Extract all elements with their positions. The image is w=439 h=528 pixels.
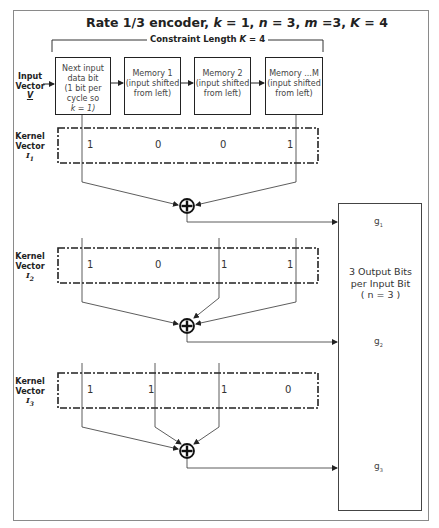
kernel-3-value-4: 0 bbox=[285, 384, 291, 395]
kernel-symbol: I3 bbox=[15, 396, 45, 408]
output-g1: g1 bbox=[374, 216, 383, 228]
kernel-label-line1: Kernel bbox=[15, 377, 45, 387]
register-line: Memory 2 bbox=[196, 69, 250, 79]
register-line: (1 bit per bbox=[62, 84, 104, 94]
constraint-value: = 4 bbox=[246, 34, 265, 44]
register-line: cycle so bbox=[62, 94, 104, 104]
kernel-symbol: I2 bbox=[15, 271, 45, 283]
register-line: Memory 1 bbox=[126, 69, 180, 79]
output-g2: g2 bbox=[374, 336, 383, 348]
register-memory-2: Memory 2 (input shifted from left) bbox=[194, 57, 251, 115]
register-line: (input shifted bbox=[196, 79, 250, 89]
constraint-prefix: Constraint Length bbox=[150, 34, 240, 44]
kernel-2-value-2: 0 bbox=[155, 259, 161, 270]
kernel-1-value-3: 0 bbox=[220, 139, 226, 150]
register-line: from left) bbox=[196, 89, 250, 99]
input-vector-label: Input Vector V bbox=[15, 72, 45, 101]
kernel-2-value-4: 1 bbox=[287, 259, 293, 270]
kernel-vector-2-label: Kernel Vector I2 bbox=[15, 252, 45, 283]
register-memory-m: Memory ...M (input shifted from left) bbox=[265, 57, 323, 115]
register-line: (input shifted bbox=[267, 79, 321, 89]
register-next-input: Next input data bit (1 bit per cycle so … bbox=[55, 57, 111, 115]
kernel-label-line1: Kernel bbox=[15, 252, 45, 262]
input-vector-symbol: V bbox=[15, 91, 45, 101]
output-line3: ( n = 3 ) bbox=[339, 289, 422, 301]
register-memory-1: Memory 1 (input shifted from left) bbox=[124, 57, 181, 115]
kernel-3-value-1: 1 bbox=[87, 384, 93, 395]
kernel-2-value-1: 1 bbox=[87, 259, 93, 270]
input-vector-line2: Vector bbox=[15, 82, 45, 92]
kernel-1-value-4: 1 bbox=[287, 139, 293, 150]
input-vector-line1: Input bbox=[15, 72, 45, 82]
output-line2: per Input Bit bbox=[339, 278, 422, 290]
kernel-symbol: I1 bbox=[15, 151, 45, 163]
kernel-1-value-2: 0 bbox=[155, 139, 161, 150]
output-g3: g3 bbox=[374, 461, 383, 473]
register-line: from left) bbox=[126, 89, 180, 99]
kernel-2-value-3: 1 bbox=[221, 259, 227, 270]
constraint-length-label: Constraint Length K = 4 bbox=[147, 34, 268, 44]
kernel-vector-1-label: Kernel Vector I1 bbox=[15, 132, 45, 163]
register-line: (input shifted bbox=[126, 79, 180, 89]
register-line: Next input bbox=[62, 64, 104, 74]
register-line: data bit bbox=[62, 74, 104, 84]
kernel-label-line2: Vector bbox=[15, 387, 45, 397]
register-line: from left) bbox=[267, 89, 321, 99]
output-description: 3 Output Bits per Input Bit ( n = 3 ) bbox=[339, 266, 422, 301]
kernel-vector-3-label: Kernel Vector I3 bbox=[15, 377, 45, 408]
kernel-3-value-2: 1 bbox=[148, 384, 154, 395]
kernel-label-line2: Vector bbox=[15, 142, 45, 152]
kernel-label-line1: Kernel bbox=[15, 132, 45, 142]
register-line: k = 1) bbox=[62, 104, 104, 114]
kernel-3-value-3: 1 bbox=[221, 384, 227, 395]
register-line: Memory ...M bbox=[267, 69, 321, 79]
output-line1: 3 Output Bits bbox=[339, 266, 422, 278]
kernel-label-line2: Vector bbox=[15, 262, 45, 272]
kernel-1-value-1: 1 bbox=[87, 139, 93, 150]
